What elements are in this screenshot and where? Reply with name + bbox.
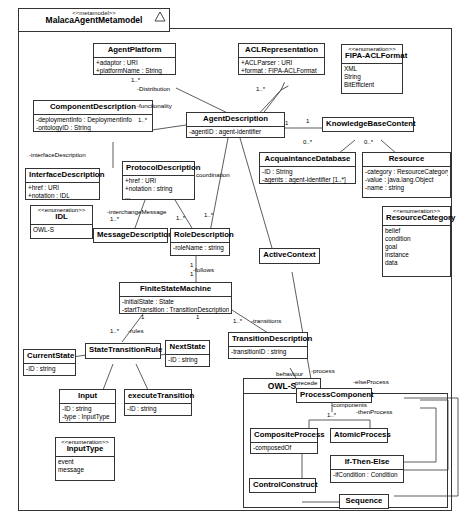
class-name: StateTransitionRule	[86, 344, 160, 357]
triangle-icon	[154, 11, 166, 22]
multiplicity: 1	[306, 118, 309, 124]
class-agentplatform[interactable]: AgentPlatform +adaptor : URI +platformNa…	[93, 43, 176, 75]
class-inputtype[interactable]: <<enumeration>> InputType event message	[55, 437, 115, 481]
class-roledescription[interactable]: RoleDescription -roleName : string	[170, 228, 230, 256]
class-ifthenelse[interactable]: If-Then-Else -ifCondition : Condition	[330, 455, 404, 483]
attribute: -startTransition : TransitionDescription	[122, 306, 229, 314]
class-atomicprocess[interactable]: AtomicProcess	[330, 428, 388, 443]
class-resourcecategory[interactable]: <<enumeration>> ResourceCategory belief …	[382, 206, 451, 277]
class-name: ControlConstruct	[250, 479, 315, 492]
class-messagedescription[interactable]: MessageDescription	[93, 228, 168, 243]
class-name: IDL	[31, 213, 92, 225]
class-attributes: -ifCondition : Condition	[331, 470, 403, 481]
multiplicity: 1	[190, 271, 193, 277]
attribute: +ACLParser : URI	[241, 59, 322, 67]
class-attributes: belief condition goal instance data	[383, 226, 450, 269]
class-attributes: -ID : String -agents : agent-identifier …	[260, 167, 355, 186]
attribute: ...	[365, 192, 448, 200]
class-attributes: -ID : string	[125, 404, 191, 415]
class-currentstate[interactable]: CurrentState -ID : string	[23, 349, 76, 376]
class-name: ProtocolDescription	[123, 162, 194, 176]
attribute: -agents : agent-identifier [1..*]	[262, 176, 353, 184]
class-name: ACLRepresentation	[239, 44, 324, 58]
class-activecontext[interactable]: ActiveContext	[259, 248, 320, 264]
attribute: -transitionID : string	[231, 348, 305, 356]
class-aclrepresentation[interactable]: ACLRepresentation +ACLParser : URI +form…	[238, 43, 325, 75]
class-name: FiniteStateMachine	[120, 283, 231, 297]
class-attributes: +href : URI +notation : IDL	[26, 183, 99, 202]
class-name: TransitionDescription	[229, 333, 307, 347]
attribute: +notation : string	[125, 185, 192, 193]
multiplicity: 1..*	[256, 86, 265, 92]
class-attributes: +href : URI +notation : string ...	[123, 176, 194, 203]
edge-label-rules: -rules	[128, 328, 143, 334]
attribute: data	[385, 259, 448, 267]
class-attributes: event message	[56, 457, 114, 476]
class-protocoldescription[interactable]: ProtocolDescription +href : URI +notatio…	[122, 161, 195, 200]
class-name: InputType	[56, 445, 114, 457]
package-header: <<metamodel>> MalacaAgentMetamodel	[18, 8, 170, 32]
multiplicity: 1	[190, 262, 193, 268]
attribute: BitEfficient	[344, 81, 400, 89]
class-attributes: -roleName : string	[171, 243, 229, 254]
class-input[interactable]: Input -ID : string -type : InputType	[59, 389, 116, 423]
uml-class-diagram: <<metamodel>> MalacaAgentMetamodel OWL-S…	[0, 0, 470, 527]
class-idl[interactable]: <<enumeration>> IDL OWL-S	[30, 205, 93, 239]
multiplicity: 1..*	[110, 216, 119, 222]
class-name: RoleDescription	[171, 229, 229, 243]
class-attributes: -deploymentInfo : DeploymentInfo -ontolo…	[34, 115, 152, 134]
attribute: +href : URI	[28, 184, 97, 192]
edge-label-precede: -precede	[293, 380, 317, 386]
attribute: ...	[125, 193, 192, 201]
class-transitiondescription[interactable]: TransitionDescription -transitionID : st…	[228, 332, 308, 359]
class-componentdescription[interactable]: ComponentDescription -deploymentInfo : D…	[33, 100, 153, 132]
multiplicity: 0..*	[364, 139, 373, 145]
attribute: +href : URI	[125, 177, 192, 185]
attribute: +platformName : String	[96, 67, 173, 75]
class-interfacedescription[interactable]: InterfaceDescription +href : URI +notati…	[25, 168, 100, 200]
attribute: -name : string	[365, 184, 448, 192]
attribute: -agentID : agent-identifier	[189, 128, 282, 136]
class-name: AgentPlatform	[94, 44, 175, 58]
class-resource[interactable]: Resource -category : ResourceCategory -v…	[362, 152, 451, 198]
class-executetransition[interactable]: executeTransition -ID : string	[124, 389, 192, 416]
attribute: event	[58, 458, 112, 466]
attribute: condition	[385, 235, 448, 243]
class-agentdescription[interactable]: AgentDescription -agentID : agent-identi…	[186, 112, 285, 138]
class-compositeprocess[interactable]: CompositeProcess -composedOf	[250, 428, 318, 454]
class-name: executeTransition	[125, 390, 191, 404]
attribute: -type : InputType	[62, 413, 113, 421]
class-sequence[interactable]: Sequence	[339, 494, 389, 509]
class-name: CurrentState	[24, 350, 75, 364]
attribute: -value : java.lang.Object	[365, 176, 448, 184]
attribute: -initialState : State	[122, 298, 229, 306]
class-attributes: -transitionID : string	[229, 347, 307, 358]
edge-label-coordination: coordination	[196, 172, 230, 178]
class-knowledgebasecontent[interactable]: KnowledgeBaseContent	[322, 117, 414, 132]
attribute: -deploymentInfo : DeploymentInfo	[36, 116, 150, 124]
class-name: ProcessComponent	[297, 389, 371, 402]
multiplicity: 1..*	[138, 117, 147, 123]
multiplicity: 1..*	[204, 212, 213, 218]
attribute: belief	[385, 227, 448, 235]
class-attributes: -composedOf	[251, 443, 317, 454]
class-fipa-aclformat[interactable]: <<enumeration>> FIPA-ACLFormat XML Strin…	[341, 44, 403, 94]
attribute: message	[58, 466, 112, 474]
attribute: -ID : string	[127, 405, 189, 413]
class-attributes: -agentID : agent-identifier	[187, 127, 284, 138]
edge-label-interchangemessage: -interchangeMessage	[107, 209, 167, 215]
attribute: instance	[385, 251, 448, 259]
class-nextstate[interactable]: NextState -ID : string	[165, 340, 210, 367]
edge-label-thenprocess: -thenProcess	[356, 409, 392, 415]
class-statetransitionrule[interactable]: StateTransitionRule	[85, 343, 161, 359]
class-controlconstruct[interactable]: ControlConstruct	[249, 478, 316, 493]
class-name: FIPA-ACLFormat	[342, 52, 402, 64]
multiplicity: 1	[141, 314, 144, 320]
multiplicity: 1..*	[327, 412, 336, 418]
class-acquaintancedatabase[interactable]: AcquaintanceDatabase -ID : String -agent…	[259, 152, 356, 184]
class-name: ActiveContext	[260, 249, 319, 262]
class-name: Input	[60, 390, 115, 404]
class-finitestatemachine[interactable]: FiniteStateMachine -initialState : State…	[119, 282, 232, 314]
class-name: CompositeProcess	[251, 429, 317, 443]
class-attributes: OWL-S	[31, 225, 92, 236]
